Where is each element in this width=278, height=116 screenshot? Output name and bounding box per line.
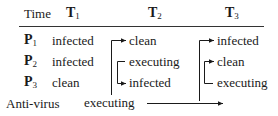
arrow-p2-to-p3: [118, 62, 127, 84]
arrow-to-p1-t3: [200, 41, 215, 102]
transition-arrows: [0, 0, 278, 116]
arrow-to-p2-t3: [205, 62, 215, 84]
arrow-antivirus-to-p1: [112, 41, 127, 96]
